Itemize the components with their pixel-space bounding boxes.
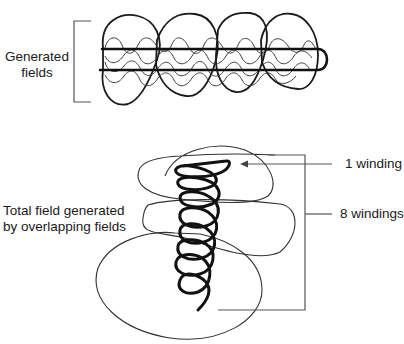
total-field-label-line2: by overlapping fields xyxy=(3,219,126,235)
large-field-lobes xyxy=(102,13,318,105)
generated-fields-bracket xyxy=(74,21,91,102)
generated-fields-label-line2: fields xyxy=(4,65,70,81)
windings-bracket xyxy=(218,155,332,310)
one-winding-label: 1 winding xyxy=(345,156,402,172)
generated-fields-label: Generated fields xyxy=(4,49,70,81)
helical-coil-wire xyxy=(176,161,230,310)
total-field-label: Total field generated by overlapping fie… xyxy=(3,203,126,235)
generated-fields-label-line1: Generated xyxy=(4,49,70,65)
total-field-label-line1: Total field generated xyxy=(3,203,126,219)
eight-windings-label: 8 windings xyxy=(340,206,404,222)
arrow-head-icon xyxy=(240,161,248,168)
small-field-waves xyxy=(105,38,316,86)
